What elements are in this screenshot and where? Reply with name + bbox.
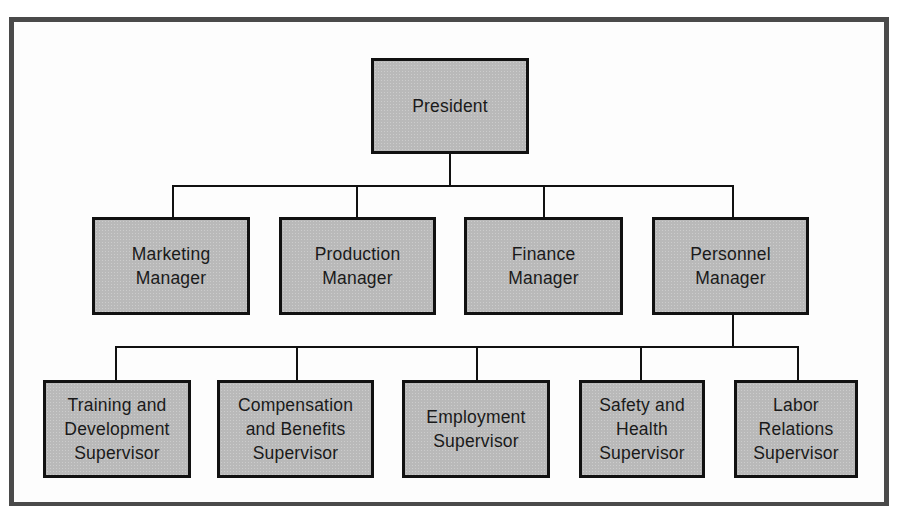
connector-to-training	[115, 346, 117, 380]
node-label: Labor Relations Supervisor	[753, 393, 839, 465]
node-label: Finance Manager	[508, 242, 578, 290]
connector-to-employment	[476, 346, 478, 380]
connector-managers-bus	[172, 185, 734, 187]
connector-to-safety	[640, 346, 642, 380]
node-labor-supervisor: Labor Relations Supervisor	[734, 380, 858, 478]
node-personnel-manager: Personnel Manager	[652, 217, 809, 315]
node-finance-manager: Finance Manager	[464, 217, 623, 315]
node-label: Marketing Manager	[132, 242, 211, 290]
connector-president-down	[449, 153, 451, 187]
connector-to-production	[356, 185, 358, 217]
node-label: Personnel Manager	[690, 242, 771, 290]
node-president: President	[371, 58, 529, 154]
node-compensation-supervisor: Compensation and Benefits Supervisor	[217, 380, 374, 478]
node-employment-supervisor: Employment Supervisor	[402, 380, 550, 478]
node-production-manager: Production Manager	[279, 217, 436, 315]
connector-personnel-down	[732, 314, 734, 348]
node-safety-supervisor: Safety and Health Supervisor	[579, 380, 705, 478]
connector-supervisors-bus	[115, 346, 798, 348]
connector-to-finance	[543, 185, 545, 217]
connector-to-labor	[797, 346, 799, 380]
node-label: Production Manager	[315, 242, 401, 290]
connector-to-marketing	[172, 185, 174, 217]
node-label: Employment Supervisor	[426, 405, 525, 453]
node-label: Safety and Health Supervisor	[599, 393, 685, 465]
node-label: President	[412, 94, 488, 118]
connector-to-personnel	[732, 185, 734, 217]
connector-to-compensation	[296, 346, 298, 380]
node-training-supervisor: Training and Development Supervisor	[43, 380, 191, 478]
node-label: Training and Development Supervisor	[64, 393, 169, 465]
node-label: Compensation and Benefits Supervisor	[238, 393, 353, 465]
node-marketing-manager: Marketing Manager	[92, 217, 250, 315]
